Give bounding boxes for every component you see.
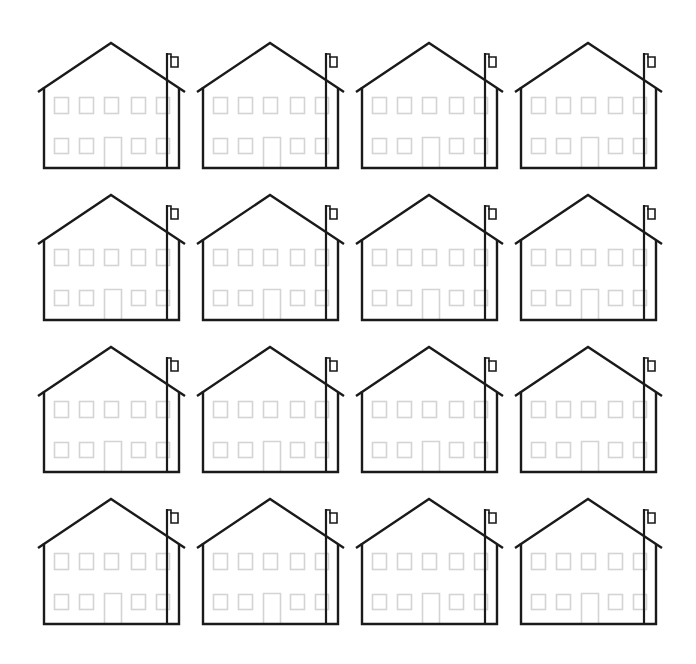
window-icon — [80, 554, 94, 570]
window-icon — [450, 443, 464, 458]
walls — [203, 87, 338, 168]
house-grid — [0, 0, 696, 664]
window-icon — [264, 554, 278, 570]
window-icon — [582, 402, 596, 418]
walls — [44, 239, 179, 320]
lower-windows — [214, 139, 329, 154]
window-icon — [239, 291, 253, 306]
window-icon — [557, 250, 571, 266]
window-icon — [105, 554, 119, 570]
window-icon — [239, 443, 253, 458]
window-icon — [532, 595, 546, 610]
upper-windows — [373, 98, 488, 114]
house-drawing-r3-c4 — [513, 344, 673, 484]
window-icon — [214, 139, 228, 154]
window-icon — [239, 554, 253, 570]
upper-windows — [373, 554, 488, 570]
walls — [44, 391, 179, 472]
flag-icon — [167, 510, 178, 523]
door-icon — [105, 594, 122, 625]
lower-windows — [373, 443, 488, 458]
window-icon — [291, 443, 305, 458]
window-icon — [609, 291, 623, 306]
window-icon — [80, 291, 94, 306]
lower-windows — [532, 291, 647, 306]
window-icon — [450, 554, 464, 570]
upper-windows — [214, 98, 329, 114]
flag-icon — [485, 206, 496, 219]
lower-windows — [55, 443, 170, 458]
window-icon — [214, 443, 228, 458]
house-icon — [195, 496, 355, 636]
window-icon — [373, 98, 387, 114]
flag-icon — [167, 358, 178, 371]
window-icon — [291, 402, 305, 418]
lower-windows — [55, 595, 170, 610]
walls — [362, 87, 497, 168]
window-icon — [450, 291, 464, 306]
window-icon — [423, 554, 437, 570]
window-icon — [373, 139, 387, 154]
roof — [356, 499, 503, 548]
upper-windows — [532, 554, 647, 570]
window-icon — [132, 402, 146, 418]
window-icon — [450, 139, 464, 154]
house-icon — [354, 40, 514, 180]
house-drawing-r1-c1 — [36, 40, 196, 180]
window-icon — [582, 250, 596, 266]
roof — [197, 347, 344, 396]
window-icon — [373, 291, 387, 306]
window-icon — [609, 250, 623, 266]
window-icon — [214, 98, 228, 114]
roof — [38, 43, 185, 92]
house-icon — [195, 192, 355, 332]
house-drawing-r4-c4 — [513, 496, 673, 636]
door-icon — [423, 594, 440, 625]
window-icon — [105, 250, 119, 266]
door-icon — [582, 594, 599, 625]
window-icon — [557, 98, 571, 114]
window-icon — [132, 554, 146, 570]
house-icon — [513, 344, 673, 484]
walls — [44, 87, 179, 168]
upper-windows — [373, 250, 488, 266]
lower-windows — [214, 443, 329, 458]
house-drawing-r2-c1 — [36, 192, 196, 332]
upper-windows — [373, 402, 488, 418]
window-icon — [450, 98, 464, 114]
house-icon — [513, 40, 673, 180]
window-icon — [609, 595, 623, 610]
house-icon — [513, 192, 673, 332]
upper-windows — [55, 402, 170, 418]
lower-windows — [532, 595, 647, 610]
door-icon — [105, 138, 122, 169]
lower-windows — [373, 595, 488, 610]
house-drawing-r3-c3 — [354, 344, 514, 484]
roof — [197, 499, 344, 548]
house-icon — [513, 496, 673, 636]
window-icon — [373, 250, 387, 266]
window-icon — [291, 250, 305, 266]
flag-icon — [644, 54, 655, 67]
window-icon — [373, 554, 387, 570]
flag-icon — [167, 206, 178, 219]
window-icon — [80, 595, 94, 610]
window-icon — [532, 98, 546, 114]
house-drawing-r4-c2 — [195, 496, 355, 636]
window-icon — [398, 402, 412, 418]
house-icon — [36, 344, 196, 484]
window-icon — [55, 595, 69, 610]
walls — [362, 239, 497, 320]
window-icon — [291, 139, 305, 154]
lower-windows — [55, 139, 170, 154]
window-icon — [557, 402, 571, 418]
window-icon — [55, 443, 69, 458]
house-drawing-r4-c3 — [354, 496, 514, 636]
flag-icon — [167, 54, 178, 67]
window-icon — [557, 554, 571, 570]
door-icon — [264, 594, 281, 625]
house-icon — [195, 344, 355, 484]
roof — [197, 195, 344, 244]
window-icon — [398, 443, 412, 458]
lower-windows — [55, 291, 170, 306]
